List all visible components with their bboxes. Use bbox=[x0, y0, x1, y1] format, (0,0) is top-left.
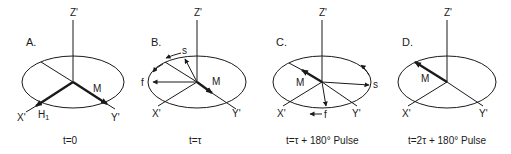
x-axis-back bbox=[41, 62, 73, 82]
m-vector bbox=[197, 82, 212, 93]
m-vector bbox=[302, 70, 322, 82]
f-label: f bbox=[141, 77, 144, 88]
y-axis-label: Y' bbox=[111, 112, 120, 123]
s-rotation-arrow bbox=[166, 53, 181, 58]
h1-label-sub: 1 bbox=[45, 114, 49, 121]
panel-b: B. Z' s f M X' Y' t=τ bbox=[141, 7, 246, 146]
y-axis-label: Y' bbox=[232, 108, 241, 119]
x-axis-label: X' bbox=[17, 112, 26, 123]
y-axis-label: Y' bbox=[479, 108, 488, 119]
panel-c-label: C. bbox=[276, 36, 287, 48]
panel-b-label: B. bbox=[151, 36, 161, 48]
m-vector bbox=[73, 82, 107, 104]
x-axis-front bbox=[408, 82, 447, 106]
m-label: M bbox=[421, 73, 429, 84]
h1-vector bbox=[36, 82, 73, 106]
m-label: M bbox=[296, 77, 304, 88]
panel-a: A. Z' M X' H1 Y' t=0 bbox=[17, 7, 124, 146]
x-axis-label: X' bbox=[402, 108, 411, 119]
h1-label-main: H bbox=[38, 109, 45, 120]
spin-echo-diagram: A. Z' M X' H1 Y' t=0 B. Z' s f bbox=[0, 0, 511, 154]
s-vector bbox=[322, 82, 369, 85]
f-rotation-arrow bbox=[153, 64, 163, 72]
m-label: M bbox=[212, 76, 220, 87]
caption-b: t=τ bbox=[189, 135, 202, 146]
caption-d: t=2τ + 180° Pulse bbox=[408, 135, 486, 146]
panel-d: D. Z' M X' Y' t=2τ + 180° Pulse bbox=[398, 7, 496, 146]
x-axis-front bbox=[26, 106, 36, 112]
panel-d-label: D. bbox=[402, 36, 413, 48]
panel-c: C. Z' M s f X' Y' t=τ + 180° Pulse bbox=[273, 7, 378, 146]
y-axis-front bbox=[447, 82, 483, 106]
x-axis-front bbox=[158, 82, 197, 106]
s-label: s bbox=[373, 79, 378, 90]
y-axis-front bbox=[322, 82, 357, 106]
caption-c: t=τ + 180° Pulse bbox=[286, 135, 359, 146]
y-axis-front bbox=[107, 104, 115, 109]
z-axis-label: Z' bbox=[194, 7, 202, 18]
z-axis-label: Z' bbox=[444, 7, 452, 18]
y-axis-label: Y' bbox=[352, 108, 361, 119]
s-label: s bbox=[182, 45, 187, 56]
panel-a-label: A. bbox=[26, 36, 36, 48]
m-label: M bbox=[93, 83, 101, 94]
z-axis-label: Z' bbox=[319, 7, 327, 18]
x-axis-back bbox=[289, 63, 302, 70]
x-axis-label: X' bbox=[277, 108, 286, 119]
caption-a: t=0 bbox=[63, 135, 78, 146]
m-vector bbox=[415, 62, 447, 82]
f-vector bbox=[322, 82, 326, 106]
x-axis-label: X' bbox=[152, 108, 161, 119]
f-label: f bbox=[324, 109, 327, 120]
h1-label: H1 bbox=[38, 109, 49, 121]
z-axis-label: Z' bbox=[70, 7, 78, 18]
